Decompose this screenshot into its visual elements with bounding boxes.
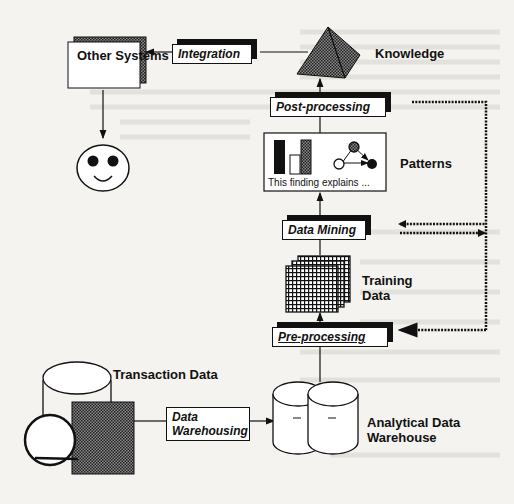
- pre-processing-process: Pre-processing: [272, 327, 388, 347]
- feedback-loops: [400, 102, 486, 330]
- integration-process: Integration: [172, 44, 252, 64]
- smiley-face-icon: [77, 145, 129, 191]
- data-mining-process: Data Mining: [282, 220, 366, 240]
- data-warehousing-process: Data Warehousing: [166, 407, 250, 441]
- patterns-caption: This finding explains ...: [268, 177, 370, 189]
- post-processing-process: Post-processing: [270, 97, 386, 117]
- other-systems-label: Other Systems: [77, 48, 169, 63]
- patterns-label: Patterns: [400, 156, 452, 171]
- transaction-data-label: Transaction Data: [113, 367, 218, 382]
- grid-stack-icon: [286, 256, 350, 312]
- analytical-warehouse-label: Analytical Data Warehouse: [367, 415, 460, 445]
- training-data-label: Training Data: [362, 273, 413, 303]
- double-cylinder-icon: [273, 382, 358, 454]
- knowledge-label: Knowledge: [375, 46, 444, 61]
